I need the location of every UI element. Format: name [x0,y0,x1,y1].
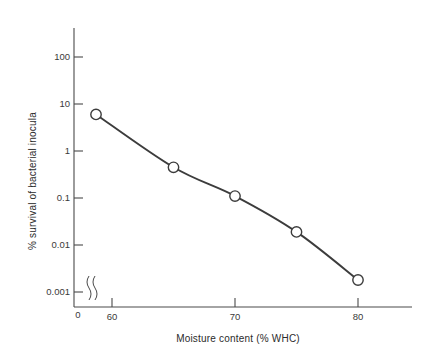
x-axis-title: Moisture content (% WHC) [176,333,300,344]
y-tick-label: 0.1 [57,192,70,203]
y-tick-label: 10 [59,98,70,109]
x-axis-origin-label: 0 [75,309,80,320]
y-tick-label: 0.01 [52,239,71,250]
x-axis-break-icon [87,276,97,300]
y-axis-tick-labels: 100 10 1 0.1 0.01 0.001 [46,51,70,297]
data-point-markers [91,109,363,285]
y-tick-label: 100 [54,51,70,62]
y-tick-label: 0.001 [46,286,70,297]
x-tick-label: 70 [230,311,241,322]
x-axis-ticks [112,298,358,307]
x-tick-label: 80 [353,311,364,322]
x-axis-tick-labels: 60 70 80 [107,311,364,322]
survival-vs-moisture-line-chart: 100 10 1 0.1 0.01 0.001 % survival of ba… [0,0,430,358]
data-point-marker [230,191,240,201]
y-tick-label: 1 [65,145,70,156]
data-point-marker [291,227,301,237]
x-tick-label: 60 [107,311,118,322]
data-point-marker [91,109,101,119]
data-point-marker [168,162,178,172]
y-axis-ticks [74,57,83,292]
data-series-curve [96,114,358,280]
data-point-marker [353,275,363,285]
chart-figure: 100 10 1 0.1 0.01 0.001 % survival of ba… [0,0,430,358]
y-axis-title: % survival of bacterial inocula [27,112,38,250]
